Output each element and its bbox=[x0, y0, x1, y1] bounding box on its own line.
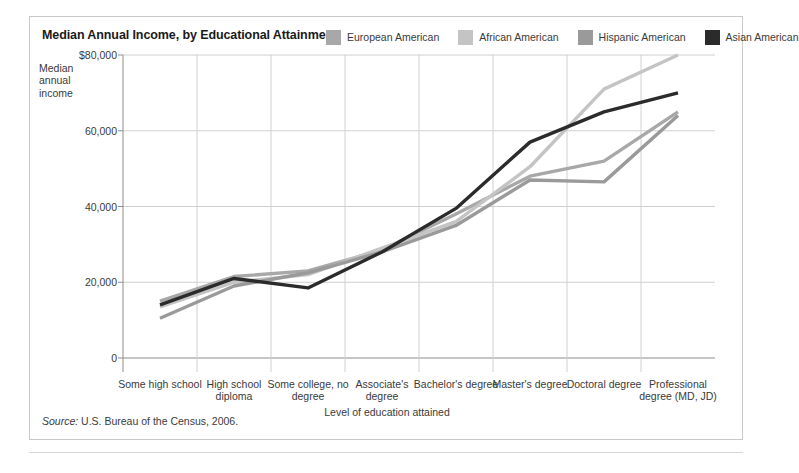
figure-container: Median Annual Income, by Educational Att… bbox=[29, 16, 743, 440]
y-axis-tick-label: 40,000 bbox=[53, 202, 117, 213]
y-axis-tick-label: 60,000 bbox=[53, 126, 117, 137]
plot-area: $80,00060,00040,00020,0000Some high scho… bbox=[30, 17, 744, 441]
source-note: Source: U.S. Bureau of the Census, 2006. bbox=[42, 415, 238, 427]
source-value: U.S. Bureau of the Census, 2006. bbox=[78, 415, 238, 427]
x-axis-tick-label: Professional degree (MD, JD) bbox=[635, 378, 721, 402]
source-label: Source: bbox=[42, 415, 78, 427]
y-axis-tick-label: $80,000 bbox=[53, 50, 117, 61]
footer-divider bbox=[29, 452, 743, 453]
y-axis-tick-label: 0 bbox=[53, 353, 117, 364]
y-axis-tick-label: 20,000 bbox=[53, 277, 117, 288]
